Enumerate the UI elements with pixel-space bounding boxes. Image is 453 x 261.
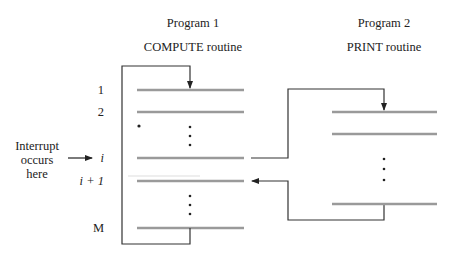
program2-ellipsis	[383, 158, 386, 182]
diagram-canvas	[0, 0, 453, 261]
program1-flow	[122, 66, 190, 244]
program1-instructions	[137, 90, 244, 228]
program1-ellipsis	[137, 124, 191, 215]
transfer-flow	[251, 89, 384, 220]
